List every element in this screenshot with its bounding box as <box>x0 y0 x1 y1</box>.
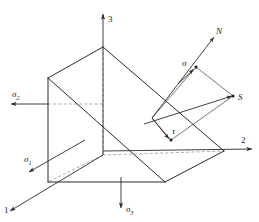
sigma-component-arrow <box>178 69 194 84</box>
axis-1-label: 1 <box>4 205 9 215</box>
sigma-3-label: σ3 <box>126 204 133 216</box>
edge-apex-to-right <box>103 47 224 151</box>
coordinate-axes-group: 3 2 1 <box>4 14 252 215</box>
normal-vector-N-arrow <box>152 37 214 118</box>
parallelogram-side-right-upper <box>196 67 233 96</box>
axis-2-label: 2 <box>241 135 246 145</box>
hidden-edge-to-front-left <box>48 155 103 182</box>
axis-2-line <box>103 149 252 151</box>
sigma-2-subscript: 2 <box>16 95 19 101</box>
stress-vector-parallelogram-group: N S σ τ <box>144 26 243 142</box>
parallelogram-side-left-upper <box>152 67 196 118</box>
sigma-1-arrow <box>29 140 85 172</box>
edge-incline-left <box>48 78 165 182</box>
sigma-1-subscript: 1 <box>28 160 31 166</box>
edge-bottom-right <box>165 151 224 182</box>
hidden-edges-group <box>48 47 224 182</box>
sigma-3-subscript: 3 <box>129 210 133 216</box>
edge-topleft-to-apex <box>48 47 103 78</box>
sigma-2-label: σ2 <box>12 89 19 101</box>
resultant-tip-dot <box>232 95 235 98</box>
wedge-solid-edges-group <box>48 47 224 182</box>
normal-stress-sigma-label: σ <box>182 58 187 68</box>
stress-labels-group: σ1 σ2 σ3 <box>12 89 133 216</box>
hidden-edge-to-right <box>103 151 224 155</box>
stress-tetrahedron-figure: 3 2 1 σ1 σ2 σ3 <box>0 0 259 222</box>
axis-3-label: 3 <box>108 14 113 24</box>
sigma-tip-dot <box>195 66 198 69</box>
tau-tip-dot <box>170 139 173 142</box>
normal-N-label: N <box>215 26 223 36</box>
tau-component-arrow <box>152 118 169 139</box>
shear-stress-tau-label: τ <box>172 126 176 136</box>
sigma-1-label: σ1 <box>24 154 31 166</box>
resultant-S-label: S <box>238 92 243 102</box>
parallelogram-side-right-lower <box>171 96 233 140</box>
